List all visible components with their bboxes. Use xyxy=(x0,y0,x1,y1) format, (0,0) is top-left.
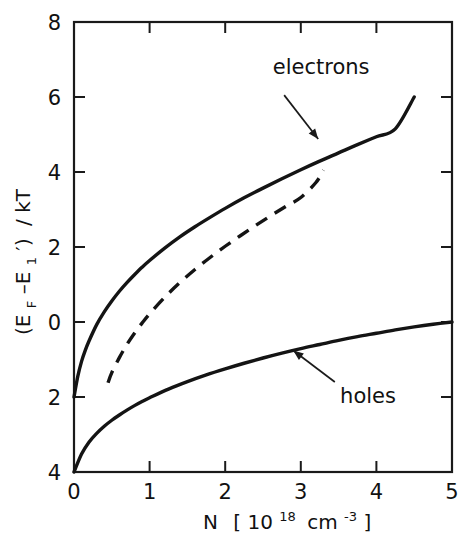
x-axis-title: N [ 10 18 cm -3 ] xyxy=(203,502,371,534)
y-tick-label: 6 xyxy=(48,86,61,110)
x-axis-title-symbol: N xyxy=(203,510,218,534)
curve-electrons xyxy=(74,97,414,397)
x-tick-label: 4 xyxy=(370,480,383,504)
y-tick-label: 2 xyxy=(48,386,61,410)
y-tick-labels: 8642024 xyxy=(48,11,61,485)
y-axis-sub-f: F xyxy=(24,301,39,308)
y-axis-open: (E xyxy=(11,315,35,335)
annotation-arrowhead-electrons xyxy=(309,128,318,139)
svg-text:(E F –E: (E F –E 1 ′) / kT xyxy=(11,188,41,335)
x-axis-exponent: 18 xyxy=(279,509,296,524)
y-tick-label: 4 xyxy=(48,161,61,185)
x-axis-bracket-open: [ xyxy=(233,510,241,534)
annotation-arrowhead-holes xyxy=(293,351,304,360)
x-tick-label: 1 xyxy=(143,480,156,504)
y-tick-label: 2 xyxy=(48,236,61,260)
x-axis-unit-exponent: -3 xyxy=(344,509,357,524)
series-annotations: electronsholes xyxy=(273,55,396,408)
x-tick-label: 0 xyxy=(67,480,80,504)
y-axis-title: (E F –E 1 ′) / kT xyxy=(11,188,41,335)
x-tick-label: 5 xyxy=(445,480,458,504)
y-tick-label: 8 xyxy=(48,11,61,35)
x-tick-labels: 012345 xyxy=(67,480,458,504)
figure-container: 012345 8642024 electronsholes N [ 10 18 … xyxy=(0,0,471,544)
x-tick-label: 2 xyxy=(219,480,232,504)
data-curves xyxy=(74,97,452,472)
chart-canvas: 012345 8642024 electronsholes N [ 10 18 … xyxy=(0,0,471,544)
x-axis-base: 10 xyxy=(248,510,273,534)
y-axis-tail: / kT xyxy=(11,188,35,226)
y-tick-label: 4 xyxy=(48,461,61,485)
x-axis-unit: cm xyxy=(307,510,337,534)
annotation-label-electrons: electrons xyxy=(273,55,370,79)
x-axis-bracket-close: ] xyxy=(363,510,371,534)
y-axis-minus-e: –E xyxy=(11,272,35,295)
y-tick-label: 0 xyxy=(48,311,61,335)
svg-text:N [ 10: N [ 10 18 cm -3 ] xyxy=(203,502,371,534)
x-tick-label: 3 xyxy=(294,480,307,504)
y-axis-sub-1: 1 xyxy=(24,257,39,265)
y-axis-prime: ′) xyxy=(11,238,35,250)
annotation-label-holes: holes xyxy=(340,384,396,408)
